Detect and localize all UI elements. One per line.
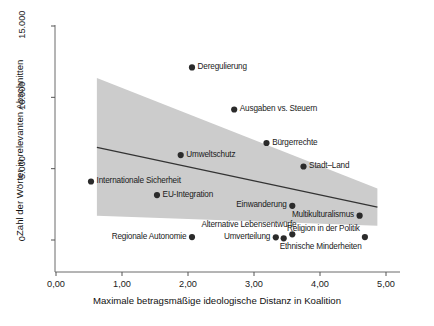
data-point[interactable] xyxy=(189,64,195,70)
data-point[interactable] xyxy=(154,192,160,198)
data-point[interactable] xyxy=(281,235,287,241)
data-point[interactable] xyxy=(362,234,368,240)
data-point[interactable] xyxy=(357,213,363,219)
chart-canvas xyxy=(0,0,434,326)
data-point-label: Umweltschutz xyxy=(186,151,235,159)
data-point[interactable] xyxy=(88,178,94,184)
x-axis-ticks xyxy=(56,272,386,276)
y-axis-ticks xyxy=(51,26,55,240)
x-tick-label: 4,00 xyxy=(300,280,340,289)
data-point[interactable] xyxy=(300,163,306,169)
data-point-label: Umverteilung xyxy=(224,233,270,241)
data-point-label: Deregulierung xyxy=(198,63,247,71)
data-point[interactable] xyxy=(263,140,269,146)
data-point[interactable] xyxy=(178,152,184,158)
data-point-label: Einwanderung xyxy=(236,201,286,209)
data-point-label: Multikulturalismus xyxy=(292,211,354,219)
data-point[interactable] xyxy=(273,234,279,240)
scatter-plot-figure: DeregulierungAusgaben vs. SteuernBürgerr… xyxy=(0,0,434,326)
data-point-label: Ausgaben vs. Steuern xyxy=(240,105,317,113)
data-point-label: Ethnische Minderheiten xyxy=(280,243,362,251)
x-tick-label: 1,00 xyxy=(102,280,142,289)
data-point-label: Internationale Sicherheit xyxy=(97,177,181,185)
data-point[interactable] xyxy=(189,234,195,240)
data-point-label: Religion in der Politik xyxy=(287,225,360,233)
x-axis-title: Maximale betragsmäßige ideologische Dist… xyxy=(0,296,434,306)
data-point[interactable] xyxy=(231,106,237,112)
x-tick-label: 5,00 xyxy=(366,280,406,289)
data-point-label: Bürgerrechte xyxy=(272,139,317,147)
data-point[interactable] xyxy=(289,203,295,209)
x-tick-label: 3,00 xyxy=(234,280,274,289)
data-point-label: Alternative Lebensentwürfe xyxy=(201,221,296,229)
data-point-label: Regionale Autonomie xyxy=(112,233,187,241)
x-tick-label: 0,00 xyxy=(36,280,76,289)
y-axis-title: Zahl der Wörter in relevanten Abschnitte… xyxy=(15,8,25,288)
data-point-label: Stadt–Land xyxy=(309,162,349,170)
data-point-label: EU-Integration xyxy=(163,191,214,199)
x-tick-label: 2,00 xyxy=(168,280,208,289)
